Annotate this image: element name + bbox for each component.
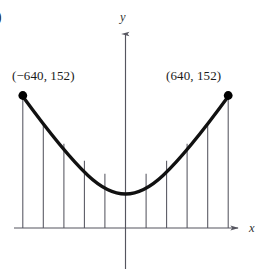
x-axis-label: x — [249, 222, 255, 235]
y-axis-label: y — [120, 11, 126, 24]
right-point-label: (640, 152) — [166, 69, 221, 82]
left-point-label: (−640, 152) — [12, 69, 75, 82]
figure-container: ) — [0, 0, 262, 269]
left-endpoint-dot — [18, 91, 27, 100]
right-endpoint-dot — [224, 91, 233, 100]
parabola-plot — [0, 0, 262, 269]
